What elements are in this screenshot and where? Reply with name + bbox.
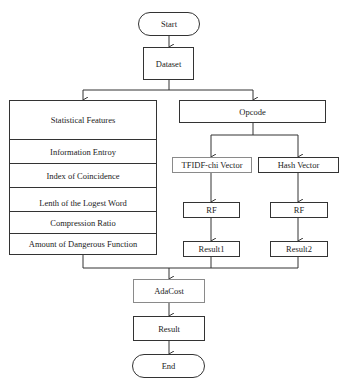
rf-right-box: RF <box>270 202 328 218</box>
end-label: End <box>162 361 176 371</box>
opcode-label: Opcode <box>239 107 265 117</box>
end-terminal: End <box>132 354 205 378</box>
feature-longest-word-length: Lenth of the Logest Word <box>10 187 156 211</box>
feature-information-entropy: Information Entroy <box>10 139 156 163</box>
feature-dangerous-function-amount: Amount of Dangerous Function <box>10 233 156 254</box>
rf-left-box: RF <box>183 202 240 218</box>
start-terminal: Start <box>138 12 200 36</box>
result-box: Result <box>133 316 205 341</box>
feature-label: Lenth of the Logest Word <box>39 198 126 208</box>
tfidf-vector-label: TFIDF-chi Vector <box>182 160 243 170</box>
adacost-box: AdaCost <box>133 279 205 303</box>
adacost-label: AdaCost <box>154 286 184 296</box>
dataset-box: Dataset <box>143 47 194 80</box>
start-label: Start <box>161 19 177 29</box>
statistical-features-box: Statistical Features Information Entroy … <box>9 100 157 255</box>
rf-left-label: RF <box>206 205 216 215</box>
statistical-features-title: Statistical Features <box>10 101 156 139</box>
result2-box: Result2 <box>270 241 328 257</box>
tfidf-vector-box: TFIDF-chi Vector <box>172 157 252 173</box>
opcode-box: Opcode <box>179 100 326 123</box>
hash-vector-box: Hash Vector <box>258 157 339 173</box>
result-label: Result <box>158 324 180 334</box>
statistical-features-title-label: Statistical Features <box>51 115 115 125</box>
result1-label: Result1 <box>199 244 225 254</box>
dataset-label: Dataset <box>156 59 182 69</box>
feature-label: Compression Ratio <box>50 218 115 228</box>
result2-label: Result2 <box>286 244 312 254</box>
hash-vector-label: Hash Vector <box>278 160 320 170</box>
feature-compression-ratio: Compression Ratio <box>10 211 156 233</box>
result1-box: Result1 <box>183 241 240 257</box>
rf-right-label: RF <box>294 205 304 215</box>
feature-label: Information Entroy <box>50 147 116 157</box>
feature-label: Index of Coincidence <box>46 171 119 181</box>
feature-label: Amount of Dangerous Function <box>29 239 137 249</box>
feature-index-of-coincidence: Index of Coincidence <box>10 163 156 187</box>
